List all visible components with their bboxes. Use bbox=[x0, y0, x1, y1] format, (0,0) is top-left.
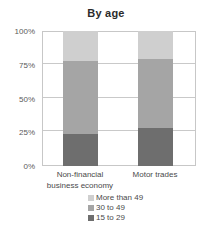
legend-swatch-icon bbox=[88, 215, 94, 221]
legend-item[interactable]: More than 49 bbox=[0, 193, 212, 202]
gridline bbox=[43, 130, 195, 131]
x-axis-labels: Non-financialbusiness economyMotor trade… bbox=[42, 170, 196, 194]
x-category-label-line: business economy bbox=[37, 181, 123, 192]
legend-item[interactable]: 15 to 29 bbox=[0, 213, 212, 222]
legend-item[interactable]: 30 to 49 bbox=[0, 203, 212, 212]
legend-label: 15 to 29 bbox=[96, 213, 125, 222]
legend-swatch-icon bbox=[88, 195, 94, 201]
x-category-label-line: Motor trades bbox=[112, 170, 198, 181]
y-tick-label: 50% bbox=[19, 94, 35, 103]
y-tick-label: 25% bbox=[19, 128, 35, 137]
legend-swatch-icon bbox=[88, 205, 94, 211]
y-tick-label: 0% bbox=[23, 162, 35, 171]
y-tick-label: 100% bbox=[15, 27, 35, 36]
gridline bbox=[43, 97, 195, 98]
y-tick-label: 75% bbox=[19, 60, 35, 69]
y-axis-labels: 100%75%50%25%0% bbox=[0, 31, 38, 166]
legend-label: 30 to 49 bbox=[96, 203, 125, 212]
chart-container: By age 100%75%50%25%0% Non-financialbusi… bbox=[0, 0, 212, 234]
plot-area bbox=[42, 31, 196, 166]
x-category-label: Non-financialbusiness economy bbox=[37, 170, 123, 191]
chart-legend: More than 4930 to 4915 to 29 bbox=[0, 193, 212, 223]
x-category-label: Motor trades bbox=[112, 170, 198, 181]
gridline bbox=[43, 63, 195, 64]
legend-label: More than 49 bbox=[96, 193, 143, 202]
x-category-label-line: Non-financial bbox=[37, 170, 123, 181]
chart-title: By age bbox=[0, 7, 212, 19]
